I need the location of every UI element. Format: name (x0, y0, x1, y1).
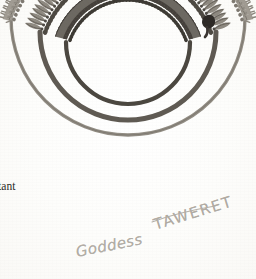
printed-caption-tail: tant (0, 180, 16, 192)
middle-pendant-group (24, 0, 232, 32)
necklace-inner (55, 0, 201, 104)
inner-pendant-group (55, 0, 201, 41)
scan-page: tant Goddess TAWERET (0, 0, 256, 279)
clasp-knot (202, 15, 215, 37)
